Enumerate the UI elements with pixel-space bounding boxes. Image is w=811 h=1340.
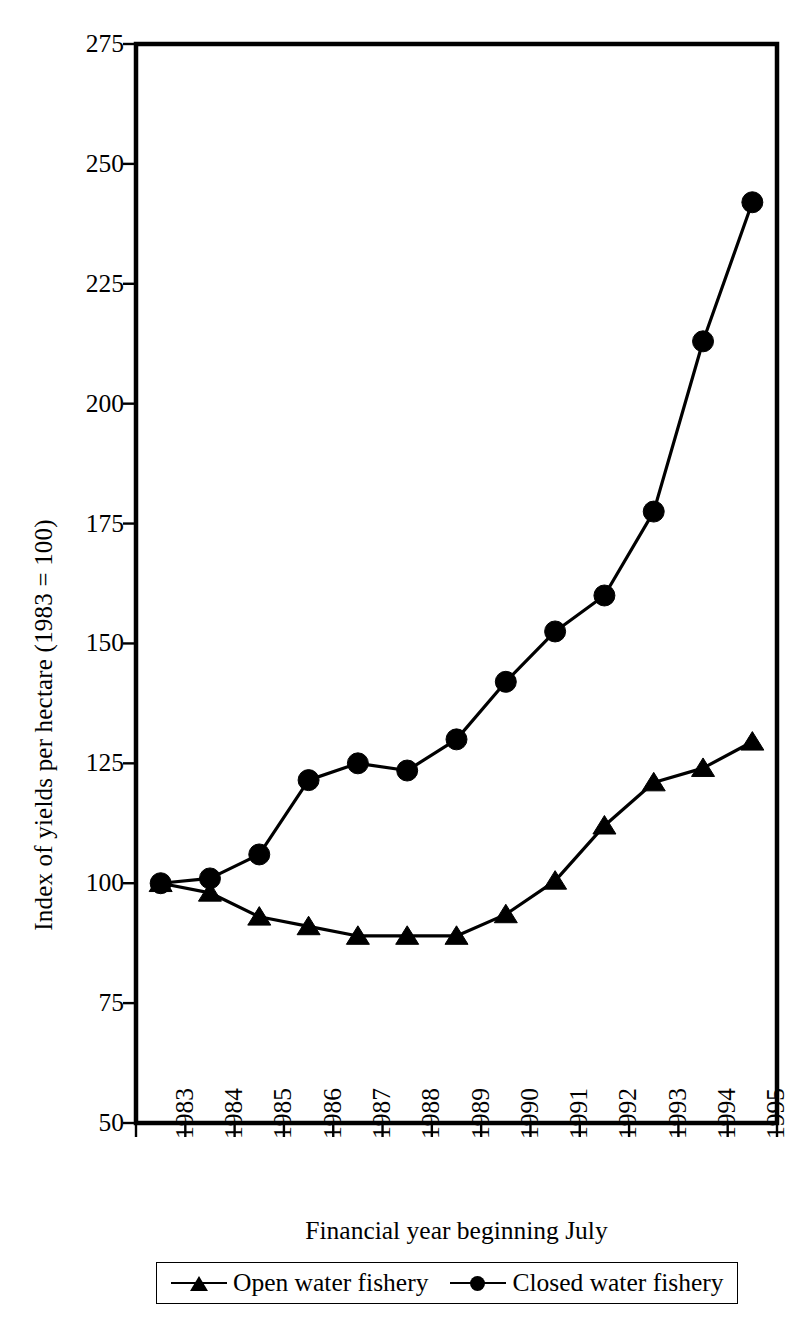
- x-tick-label: 1993: [665, 1019, 691, 1139]
- x-tick-label: 1984: [221, 1019, 247, 1139]
- x-axis-tick-labels: 1983198419851986198719881989199019911992…: [0, 0, 811, 1340]
- x-tick-label: 1994: [714, 1019, 740, 1139]
- legend-triangle: [190, 1276, 208, 1291]
- chart-figure: Index of yields per hectare (1983 = 100)…: [0, 0, 811, 1340]
- legend-label: Open water fishery: [233, 1270, 428, 1296]
- x-tick-label: 1990: [517, 1019, 543, 1139]
- x-tick-label: 1986: [320, 1019, 346, 1139]
- legend-entry: Closed water fishery: [450, 1270, 723, 1296]
- legend-entry: Open water fishery: [171, 1270, 428, 1296]
- x-tick-label: 1985: [270, 1019, 296, 1139]
- x-tick-label: 1991: [566, 1019, 592, 1139]
- x-axis-title: Financial year beginning July: [136, 1216, 777, 1246]
- legend-circle: [470, 1276, 485, 1291]
- x-tick-label: 1992: [615, 1019, 641, 1139]
- x-tick-label: 1987: [369, 1019, 395, 1139]
- triangle-marker-icon: [171, 1273, 227, 1293]
- legend-label: Closed water fishery: [512, 1270, 723, 1296]
- x-tick-label: 1983: [172, 1019, 198, 1139]
- x-tick-label: 1995: [763, 1019, 789, 1139]
- x-tick-label: 1989: [468, 1019, 494, 1139]
- x-tick-label: 1988: [418, 1019, 444, 1139]
- chart-legend: Open water fisheryClosed water fishery: [156, 1262, 738, 1304]
- circle-marker-icon: [450, 1273, 506, 1293]
